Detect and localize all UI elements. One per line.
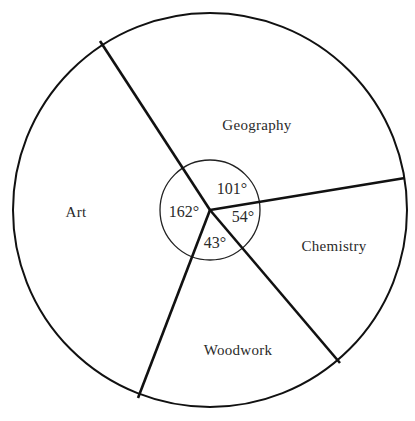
angle-label-geography: 101° xyxy=(217,180,247,198)
divider-art-geography xyxy=(100,41,210,210)
divider-woodwork-art xyxy=(138,210,210,398)
angle-label-chemistry: 54° xyxy=(232,208,254,226)
angle-label-art: 162° xyxy=(169,203,199,221)
divider-chemistry-woodwork xyxy=(210,210,340,363)
pie-chart: Geography Chemistry Woodwork Art 101° 54… xyxy=(0,0,415,421)
angle-label-woodwork: 43° xyxy=(204,234,226,252)
slice-label-art: Art xyxy=(66,204,87,221)
slice-label-woodwork: Woodwork xyxy=(204,342,273,359)
slice-label-geography: Geography xyxy=(222,117,291,134)
slice-label-chemistry: Chemistry xyxy=(301,238,366,255)
